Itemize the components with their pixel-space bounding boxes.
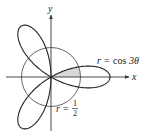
svg-text:r: r bbox=[56, 103, 60, 114]
y-axis-label: y bbox=[47, 3, 53, 14]
svg-text:=: = bbox=[104, 55, 110, 66]
svg-text:1: 1 bbox=[73, 99, 77, 108]
polar-diagram: x y r = cos 3θ r = 1 2 bbox=[0, 0, 147, 139]
svg-text:2: 2 bbox=[73, 109, 77, 118]
svg-text:r: r bbox=[97, 55, 101, 66]
x-axis-label: x bbox=[131, 71, 137, 82]
shaded-region bbox=[51, 67, 81, 77]
svg-text:3θ: 3θ bbox=[128, 55, 139, 66]
svg-text:cos: cos bbox=[113, 55, 126, 66]
rose-equation-label: r = cos 3θ bbox=[97, 55, 139, 66]
svg-text:=: = bbox=[63, 103, 69, 114]
